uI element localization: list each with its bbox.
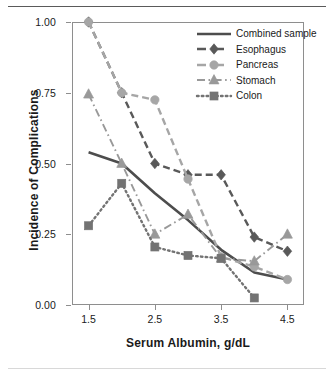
legend-key-swatch [196, 42, 232, 56]
legend-item-pancreas[interactable]: Pancreas [196, 57, 300, 73]
bottom-divider-rule [8, 368, 326, 369]
x-tick-label: 4.5 [280, 313, 295, 325]
y-tick-label: 1.00 [35, 16, 56, 28]
data-point-marker [84, 89, 94, 98]
x-tick-mark [221, 305, 222, 310]
figure: Incidence of Complications 0.000.250.500… [0, 0, 332, 374]
data-point-marker [250, 294, 258, 302]
x-axis-title: Serum Albumin, g/dL [72, 336, 304, 350]
y-tick-label: 0.75 [35, 87, 56, 99]
legend-item-combined-sample[interactable]: Combined sample [196, 26, 300, 42]
y-tick-label: 0.00 [35, 299, 56, 311]
legend-key-swatch [196, 27, 232, 41]
data-point-marker [151, 158, 160, 168]
data-point-marker [217, 254, 225, 262]
data-point-marker [151, 243, 159, 251]
legend-item-label: Stomach [236, 75, 275, 86]
legend-item-label: Esophagus [236, 44, 286, 55]
series-colon [85, 179, 259, 302]
legend-key-swatch [196, 73, 232, 87]
legend-item-colon[interactable]: Colon [196, 88, 300, 104]
legend-key-swatch [196, 89, 232, 103]
data-point-marker [183, 209, 193, 218]
data-point-marker [151, 96, 159, 104]
data-point-marker [283, 246, 292, 256]
legend-item-label: Combined sample [236, 28, 317, 39]
y-tick-mark [66, 234, 71, 235]
y-axis: 0.000.250.500.751.00 [0, 22, 66, 305]
data-point-marker [217, 170, 226, 180]
legend-key-swatch [196, 58, 232, 72]
legend-item-esophagus[interactable]: Esophagus [196, 42, 300, 58]
x-tick-mark [287, 305, 288, 310]
legend-item-label: Colon [236, 90, 262, 101]
x-tick-label: 2.5 [148, 313, 163, 325]
data-point-marker [118, 179, 126, 187]
data-point-marker [282, 229, 292, 238]
y-tick-label: 0.50 [35, 158, 56, 170]
y-tick-label: 0.25 [35, 228, 56, 240]
x-tick-label: 1.5 [81, 313, 96, 325]
data-point-marker [283, 275, 291, 283]
y-tick-mark [66, 93, 71, 94]
series-line [89, 183, 255, 298]
data-point-marker [184, 175, 192, 183]
x-tick-label: 3.5 [214, 313, 229, 325]
legend: Combined sampleEsophagusPancreasStomachC… [196, 26, 300, 104]
legend-item-label: Pancreas [236, 59, 278, 70]
x-tick-mark [155, 305, 156, 310]
top-divider-rule [8, 6, 326, 7]
legend-item-stomach[interactable]: Stomach [196, 73, 300, 89]
x-axis: 1.52.53.54.5 [72, 305, 304, 335]
data-point-marker [118, 89, 126, 97]
data-point-marker [150, 229, 160, 238]
y-tick-mark [66, 22, 71, 23]
data-point-marker [184, 251, 192, 259]
data-point-marker [85, 222, 93, 230]
y-tick-mark [66, 305, 71, 306]
x-tick-mark [89, 305, 90, 310]
data-point-marker [84, 18, 92, 26]
y-tick-mark [66, 164, 71, 165]
